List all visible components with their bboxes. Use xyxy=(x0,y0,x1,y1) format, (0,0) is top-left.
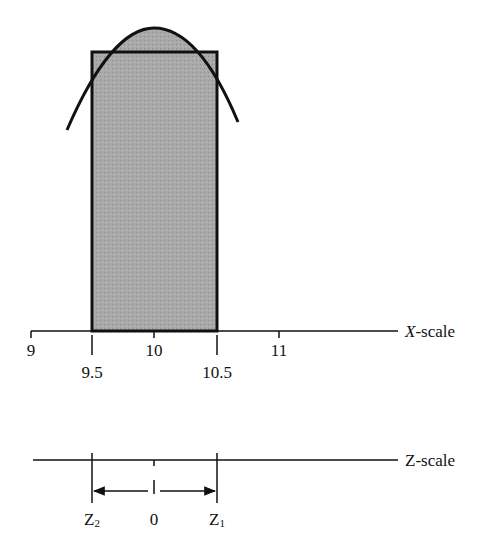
x-tick-label-9-5: 9.5 xyxy=(81,363,102,382)
x-scale-label: X-scale xyxy=(404,322,455,341)
z-tick-label-z2: Z2 xyxy=(84,510,100,529)
x-tick-label-9: 9 xyxy=(27,341,36,360)
z-tick-label-z1: Z1 xyxy=(209,510,225,529)
normal-approximation-diagram: 9 10 11 9.5 10.5 X-scale Z2 0 Z1 Z-scale xyxy=(0,0,485,554)
x-tick-label-10: 10 xyxy=(146,341,163,360)
x-tick-label-11: 11 xyxy=(271,341,287,360)
z-tick-label-0: 0 xyxy=(150,510,159,529)
x-tick-label-10-5: 10.5 xyxy=(202,363,232,382)
z-scale-label: Z-scale xyxy=(405,451,455,470)
x-axis: 9 10 11 9.5 10.5 X-scale xyxy=(27,322,455,382)
z-axis: Z2 0 Z1 Z-scale xyxy=(33,451,455,529)
x-scale-var: X xyxy=(404,322,416,341)
x-scale-suffix: -scale xyxy=(415,322,455,341)
